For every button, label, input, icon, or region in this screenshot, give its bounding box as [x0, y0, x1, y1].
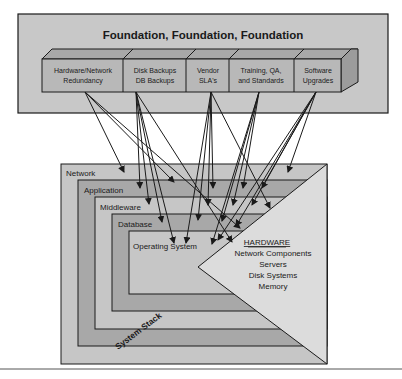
svg-text:Hardware/Network: Hardware/Network — [54, 67, 112, 74]
svg-text:Training, QA,: Training, QA, — [241, 67, 282, 75]
layer-network: Network — [66, 169, 96, 178]
hardware-title: HARDWARE — [244, 238, 290, 247]
layer-application: Application — [84, 186, 123, 195]
svg-text:Vendor: Vendor — [197, 67, 220, 74]
foundation-panel: Foundation, Foundation, Foundation Hardw… — [18, 14, 388, 113]
hardware-item: Disk Systems — [249, 271, 297, 280]
svg-text:Software: Software — [304, 67, 332, 74]
hardware-item: Memory — [259, 282, 288, 291]
diagram-canvas: Foundation, Foundation, Foundation Hardw… — [0, 0, 402, 379]
layer-database: Database — [118, 220, 153, 229]
hardware-item: Network Components — [235, 249, 312, 258]
foundation-title: Foundation, Foundation, Foundation — [103, 29, 304, 41]
layer-middleware: Middleware — [100, 203, 141, 212]
svg-text:Redundancy: Redundancy — [63, 77, 103, 85]
svg-text:Disk Backups: Disk Backups — [134, 67, 177, 75]
svg-text:Upgrades: Upgrades — [303, 77, 334, 85]
layer-operating-system: Operating System — [133, 242, 197, 251]
svg-text:SLA's: SLA's — [199, 77, 218, 84]
hardware-item: Servers — [259, 260, 287, 269]
svg-text:and Standards: and Standards — [238, 77, 284, 84]
svg-text:DB Backups: DB Backups — [136, 77, 175, 85]
